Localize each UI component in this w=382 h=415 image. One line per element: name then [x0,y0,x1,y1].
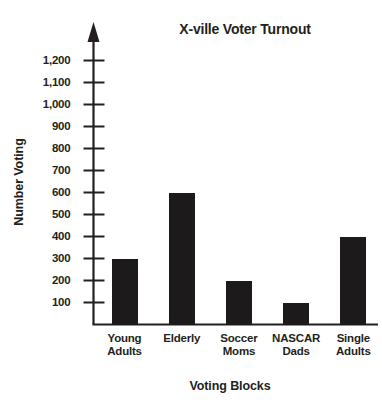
y-axis-tick-label: 700 [19,164,71,176]
y-axis-tick-label: 100 [19,296,71,308]
y-axis-arrow-icon [88,22,100,42]
category-label-line: Adults [91,345,159,359]
bar [169,193,195,325]
y-axis-tick-label: 300 [19,252,71,264]
y-axis-tick-label: 900 [19,120,71,132]
category-label: SingleAdults [319,332,382,359]
bar [226,281,252,325]
category-label-line: Single [319,332,382,346]
chart-figure: X-ville Voter Turnout Number Voting Voti… [0,0,382,415]
y-axis-tick-label: 1,200 [19,54,71,66]
y-axis-tick-label: 200 [19,274,71,286]
y-axis-tick-label: 600 [19,186,71,198]
bar [340,237,366,325]
bar [112,259,138,325]
y-axis-tick-label: 500 [19,208,71,220]
plot-area: 1002003004005006007008009001,0001,1001,2… [0,0,382,415]
y-axis-tick-label: 1,000 [19,98,71,110]
bar [283,303,309,325]
y-axis-tick-label: 800 [19,142,71,154]
y-axis-tick-label: 400 [19,230,71,242]
y-axis-tick-label: 1,100 [19,76,71,88]
category-label-line: Adults [319,345,382,359]
